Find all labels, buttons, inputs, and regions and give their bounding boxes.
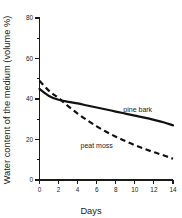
- x-tick-label: 0: [38, 186, 42, 193]
- water-content-line-chart: 020406080 02468101214 pine bark peat mos…: [0, 0, 182, 218]
- chart-figure: 020406080 02468101214 pine bark peat mos…: [0, 0, 182, 218]
- x-axis-tick-labels: 02468101214: [38, 186, 177, 193]
- x-tick-label: 12: [150, 186, 158, 193]
- y-axis-tick-labels: 020406080: [26, 14, 34, 183]
- series-label-pine-bark: pine bark: [123, 106, 152, 114]
- y-axis-ticks: [35, 18, 39, 180]
- series-line-pine-bark: [40, 89, 174, 125]
- y-tick-label: 60: [26, 55, 34, 62]
- x-axis-title: Days: [80, 206, 102, 216]
- series-label-peat-moss: peat moss: [81, 142, 114, 150]
- y-tick-label: 0: [29, 176, 33, 183]
- y-axis-title: Water content of the medium (volume %): [2, 16, 12, 185]
- x-tick-label: 4: [76, 186, 80, 193]
- x-tick-label: 8: [114, 186, 118, 193]
- x-tick-label: 6: [95, 186, 99, 193]
- y-tick-label: 80: [26, 14, 34, 21]
- x-tick-label: 14: [169, 186, 177, 193]
- y-tick-label: 20: [26, 136, 34, 143]
- x-tick-label: 2: [57, 186, 61, 193]
- x-tick-label: 10: [131, 186, 139, 193]
- x-axis-ticks: [40, 180, 174, 184]
- y-tick-label: 40: [26, 95, 34, 102]
